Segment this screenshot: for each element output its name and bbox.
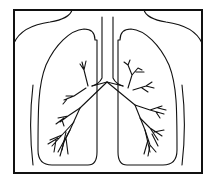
left-bronchial-tree <box>48 61 88 156</box>
right-shoulder-outline <box>144 10 202 43</box>
right-bronchial-tree <box>124 60 166 156</box>
right-main-bronchus <box>107 82 150 152</box>
left-lung-outline <box>38 29 97 165</box>
right-torso-line <box>182 85 184 165</box>
left-torso-line <box>31 85 33 165</box>
left-shoulder-outline <box>14 10 72 43</box>
right-lung-outline <box>118 29 177 165</box>
diagram-frame <box>14 10 202 173</box>
lungs-illustration <box>0 0 215 182</box>
lungs-diagram <box>0 0 215 182</box>
